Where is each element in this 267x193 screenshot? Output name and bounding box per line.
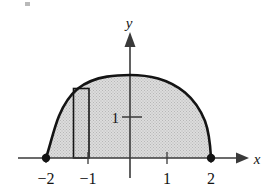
endpoint-dot-left <box>42 154 50 162</box>
x-tick-label--1: −1 <box>79 170 96 187</box>
y-axis-label: y <box>124 15 133 31</box>
x-axis-label: x <box>253 151 261 167</box>
y-tick-label-1: 1 <box>112 110 120 126</box>
x-tick-label-1: 1 <box>163 170 171 187</box>
y-axis-arrow-icon <box>125 32 136 47</box>
x-tick-label--2: −2 <box>37 170 54 187</box>
x-tick-label-2: 2 <box>207 170 215 187</box>
area-under-curve-chart: −2 −1 1 2 1 x y <box>0 0 267 193</box>
endpoint-dot-right <box>207 154 215 162</box>
figure-container: −2 −1 1 2 1 x y <box>0 0 267 193</box>
approximating-rectangle <box>74 89 90 159</box>
x-axis-arrow-icon <box>236 153 249 164</box>
